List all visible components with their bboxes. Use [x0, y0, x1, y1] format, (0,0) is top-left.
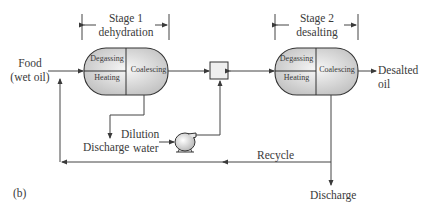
pump-icon: [175, 133, 196, 152]
pump-to-mixer-line: [196, 81, 220, 135]
dilution-label-1: Dilution: [121, 128, 159, 140]
product-label-1: Desalted: [378, 64, 418, 76]
feed-label-2: (wet oil): [8, 71, 52, 83]
stage2-subtitle: desalting: [290, 26, 344, 38]
v1-degassing: Degassing: [88, 55, 126, 63]
mixer-box: [210, 62, 228, 79]
process-flow-diagram: [0, 0, 443, 212]
v1-heating: Heating: [88, 74, 126, 82]
panel-label: (b): [13, 187, 26, 199]
v1-coalescing: Coalescing: [127, 66, 170, 74]
discharge2-label: Discharge: [310, 189, 356, 201]
stage1-subtitle: dehydration: [98, 26, 154, 38]
recycle-label: Recycle: [257, 149, 294, 161]
product-label-2: oil: [378, 78, 390, 90]
stage1-title: Stage 1: [106, 12, 146, 24]
v2-degassing: Degassing: [277, 55, 316, 63]
v2-heating: Heating: [277, 74, 316, 82]
dilution-label-2: water: [133, 142, 159, 154]
discharge1-label: Discharge: [83, 141, 129, 153]
v2-coalescing: Coalescing: [316, 66, 358, 74]
stage2-title: Stage 2: [297, 12, 337, 24]
feed-label-1: Food: [10, 57, 50, 69]
